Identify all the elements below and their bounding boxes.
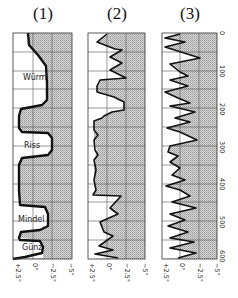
stage-mindel-label: Mindel (18, 215, 44, 224)
panel-2 (88, 33, 145, 259)
p3-xtick-3: −2.5° (196, 263, 204, 282)
stage-wurm-label: Würm (23, 73, 47, 82)
p3-xtick-4: −5° (213, 263, 221, 276)
ytick-600: 600 (218, 250, 226, 262)
y-axis-labels: 0 100 200 300 400 500 600 (218, 31, 226, 262)
p3-xtick-1: +2.5° (162, 263, 170, 282)
ytick-400: 400 (218, 178, 226, 190)
ytick-100: 100 (218, 65, 226, 77)
panel-3 (162, 33, 217, 259)
p3-xtick-2: 0° (178, 263, 186, 270)
stage-gunz-label: Günz (22, 243, 43, 252)
p1-xtick-3: −2.5° (49, 263, 57, 282)
paleoclimate-chart: Würm Riss Mindel Günz (0, 0, 238, 298)
ytick-500: 500 (218, 216, 226, 228)
p2-xtick-3: −2.5° (123, 263, 131, 282)
p1-xtick-2: 0° (31, 263, 39, 270)
panel-1: Würm Riss Mindel Günz (13, 33, 72, 259)
p2-xtick-4: −5° (141, 263, 149, 276)
x-axis-labels: +2.5° 0° −2.5° −5° +2.5° 0° −2.5° −5° +2… (14, 263, 221, 282)
p1-xtick-1: +2.5° (14, 263, 22, 282)
p2-xtick-1: +2.5° (88, 263, 96, 282)
ytick-300: 300 (218, 141, 226, 153)
p2-xtick-2: 0° (105, 263, 113, 270)
ytick-200: 200 (218, 103, 226, 115)
ytick-0: 0 (218, 31, 226, 35)
stage-riss-label: Riss (24, 141, 40, 150)
p1-xtick-4: −5° (67, 263, 75, 276)
